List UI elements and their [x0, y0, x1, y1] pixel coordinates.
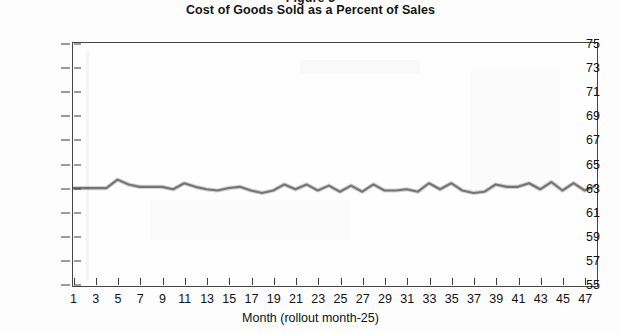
x-tick-mark — [74, 278, 75, 285]
x-tick-mark — [385, 278, 386, 285]
y-tick-mark-inner — [74, 261, 81, 262]
x-tick-label: 31 — [400, 292, 414, 306]
x-tick-mark — [496, 278, 497, 285]
y-axis — [0, 0, 72, 333]
x-tick-label: 13 — [200, 292, 214, 306]
x-tick-mark — [519, 278, 520, 285]
y-tick-mark — [61, 116, 70, 117]
x-tick-mark — [318, 278, 319, 285]
x-tick-label: 7 — [137, 292, 144, 306]
y-tick-mark-inner — [74, 188, 81, 189]
x-tick-mark — [474, 278, 475, 285]
x-tick-label: 19 — [267, 292, 281, 306]
x-tick-label: 25 — [334, 292, 348, 306]
y-tick-label: 63 — [586, 182, 600, 196]
x-tick-label: 21 — [289, 292, 303, 306]
y-tick-label: 67 — [586, 133, 600, 147]
y-tick-mark — [61, 43, 70, 44]
data-series-line — [73, 43, 596, 285]
y-tick-label: 73 — [586, 61, 600, 75]
y-tick-label: 69 — [586, 109, 600, 123]
x-tick-label: 35 — [445, 292, 459, 306]
x-tick-mark — [229, 278, 230, 285]
x-tick-mark — [96, 278, 97, 285]
y-tick-label: 57 — [586, 254, 600, 268]
plot-area — [72, 42, 598, 287]
y-tick-mark-inner — [74, 43, 81, 44]
x-tick-mark — [341, 278, 342, 285]
y-tick-mark — [61, 237, 70, 238]
x-tick-label: 23 — [311, 292, 325, 306]
y-tick-label: 61 — [586, 206, 600, 220]
chart-figure: Figure 3 Cost of Goods Sold as a Percent… — [0, 0, 621, 333]
y-tick-mark — [61, 91, 70, 92]
x-tick-mark — [185, 278, 186, 285]
x-tick-mark — [541, 278, 542, 285]
y-tick-mark — [61, 212, 70, 213]
x-tick-mark — [274, 278, 275, 285]
y-tick-label: 75 — [586, 37, 600, 51]
y-tick-mark-inner — [74, 212, 81, 213]
y-tick-mark-inner — [74, 237, 81, 238]
x-tick-label: 45 — [556, 292, 570, 306]
y-tick-label: 65 — [586, 158, 600, 172]
y-tick-mark-inner — [74, 140, 81, 141]
x-tick-mark — [407, 278, 408, 285]
x-tick-label: 41 — [512, 292, 526, 306]
y-tick-mark — [61, 164, 70, 165]
y-tick-mark — [61, 285, 70, 286]
x-tick-label: 15 — [222, 292, 236, 306]
x-tick-label: 17 — [245, 292, 259, 306]
y-tick-mark-inner — [74, 285, 81, 286]
x-tick-mark — [163, 278, 164, 285]
y-tick-mark — [61, 188, 70, 189]
x-tick-mark — [296, 278, 297, 285]
y-tick-mark-inner — [74, 116, 81, 117]
x-tick-label: 43 — [534, 292, 548, 306]
y-tick-mark — [61, 67, 70, 68]
y-tick-mark-inner — [74, 164, 81, 165]
y-tick-label: 59 — [586, 230, 600, 244]
y-tick-mark — [61, 261, 70, 262]
y-tick-label: 71 — [586, 85, 600, 99]
y-tick-mark-inner — [74, 91, 81, 92]
y-tick-mark-inner — [74, 67, 81, 68]
x-tick-mark — [207, 278, 208, 285]
x-tick-label: 47 — [578, 292, 592, 306]
x-tick-label: 3 — [92, 292, 99, 306]
x-tick-label: 37 — [467, 292, 481, 306]
x-tick-label: 39 — [489, 292, 503, 306]
x-tick-label: 33 — [423, 292, 437, 306]
y-tick-mark — [61, 140, 70, 141]
x-tick-label: 11 — [178, 292, 191, 306]
plot-inner — [73, 43, 597, 286]
x-tick-label: 5 — [115, 292, 122, 306]
x-tick-mark — [563, 278, 564, 285]
x-tick-mark — [585, 278, 586, 285]
x-tick-mark — [363, 278, 364, 285]
y-tick-label: 55 — [586, 278, 600, 292]
x-tick-label: 1 — [70, 292, 77, 306]
x-axis-title: Month (rollout month-25) — [0, 311, 621, 325]
chart-title: Cost of Goods Sold as a Percent of Sales — [0, 3, 621, 17]
x-tick-label: 27 — [356, 292, 370, 306]
x-tick-label: 29 — [378, 292, 392, 306]
x-tick-mark — [118, 278, 119, 285]
x-tick-label: 9 — [159, 292, 166, 306]
x-tick-mark — [252, 278, 253, 285]
x-tick-mark — [430, 278, 431, 285]
x-tick-mark — [452, 278, 453, 285]
x-tick-mark — [140, 278, 141, 285]
